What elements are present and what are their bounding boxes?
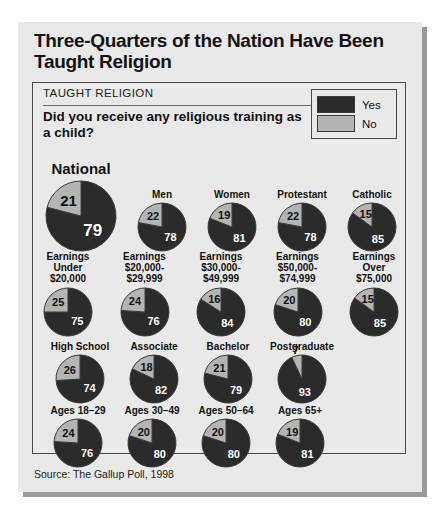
pie-wrapper: 2179 [203,354,253,404]
pie-wrapper: 2080 [201,418,251,468]
pie-row-education: High School2674Associate1882Bachelor2179… [43,341,399,404]
kicker-divider [43,105,321,106]
pie-slice-no [278,203,302,227]
pie-cell-earnings-50-000-74-999[interactable]: Earnings $50,000- $74,9992080 [273,251,323,337]
source-note: Source: The Gallup Poll, 1998 [34,468,174,480]
pie-cell-associate[interactable]: Associate1882 [117,341,191,404]
pie-chart [273,287,323,337]
legend-item-yes: Yes [317,96,391,113]
pie-row-demographics: National2179Men2278Women1981Protestant22… [45,161,397,252]
pie-chart [203,354,253,404]
pie-cell-label: High School [51,341,109,352]
pie-slice-no [138,203,162,227]
pie-row-ages: Ages 18–292476Ages 30–492080Ages 50–6420… [41,405,397,468]
pie-cell-label: Earnings $20,000- $29,999 [123,251,166,285]
pie-wrapper: 2476 [120,287,170,337]
pie-cell-protestant[interactable]: Protestant2278 [277,189,327,252]
pie-cell-earnings-under-20-000[interactable]: Earnings Under $20,0002575 [43,251,93,337]
pie-cell-national[interactable]: National2179 [45,161,117,252]
pie-chart [275,418,325,468]
chart-kicker: TAUGHT RELIGION [43,87,153,99]
pie-cell-earnings-20-000-29-999[interactable]: Earnings $20,000- $29,9992476 [120,251,170,337]
pie-cell-label: Ages 65+ [278,405,322,416]
pie-cell-label: Ages 30–49 [124,405,179,416]
pie-wrapper: 1882 [129,354,179,404]
pie-wrapper: 2179 [45,180,117,252]
chart-frame: TAUGHT RELIGION Did you receive any reli… [32,82,406,454]
pie-chart [129,354,179,404]
pie-slice-no [121,288,145,312]
pie-wrapper: 793 [277,354,327,404]
pie-cell-label: Earnings Over $75,000 [353,251,396,285]
pie-wrapper: 1585 [349,287,399,337]
pie-cell-label: Bachelor [207,341,250,352]
pie-chart [137,202,187,252]
pie-slice-no [56,355,80,381]
legend-swatch-yes-icon [317,96,355,113]
pie-wrapper: 2674 [55,354,105,404]
pie-wrapper: 2080 [127,418,177,468]
pie-wrapper: 1981 [207,202,257,252]
pie-chart [277,202,327,252]
pie-cell-label: Earnings Under $20,000 [47,251,90,285]
pie-wrapper: 1684 [196,287,246,337]
legend-item-no: No [317,115,391,132]
pie-cell-postgraduate[interactable]: Postgraduate793 [265,341,339,404]
pie-cell-ages-65[interactable]: Ages 65+1981 [263,405,337,468]
pie-row-earnings: Earnings Under $20,0002575Earnings $20,0… [43,251,399,337]
pie-wrapper: 1981 [275,418,325,468]
pie-wrapper: 2278 [137,202,187,252]
pie-chart [201,418,251,468]
pie-cell-earnings-over-75-000[interactable]: Earnings Over $75,0001585 [349,251,399,337]
screenshot-stage: Three-Quarters of the Nation Have Been T… [0,0,439,518]
pie-wrapper: 2476 [53,418,103,468]
pie-chart [347,202,397,252]
legend-label-yes: Yes [362,99,381,111]
pie-cell-women[interactable]: Women1981 [207,189,257,252]
pie-cell-bachelor[interactable]: Bachelor2179 [191,341,265,404]
infographic-card: Three-Quarters of the Nation Have Been T… [18,22,422,492]
pie-chart [127,418,177,468]
pie-slice-no [54,419,78,443]
legend-swatch-no-icon [317,115,355,132]
pie-cell-label: Earnings $30,000- $49,999 [200,251,243,285]
legend-label-no: No [362,118,377,130]
pie-cell-label: National [51,161,110,178]
pie-chart [277,354,327,404]
pie-cell-ages-50-64[interactable]: Ages 50–642080 [189,405,263,468]
pie-cell-high-school[interactable]: High School2674 [43,341,117,404]
pie-chart [207,202,257,252]
pie-cell-catholic[interactable]: Catholic1585 [347,189,397,252]
pie-chart [53,418,103,468]
pie-cell-ages-18-29[interactable]: Ages 18–292476 [41,405,115,468]
page-title: Three-Quarters of the Nation Have Been T… [34,30,408,73]
pie-cell-label: Ages 50–64 [198,405,253,416]
pie-cell-ages-30-49[interactable]: Ages 30–492080 [115,405,189,468]
pie-slice-no [44,288,68,312]
pie-cell-label: Earnings $50,000- $74,999 [276,251,319,285]
pie-cell-label: Associate [130,341,177,352]
pie-wrapper: 2575 [43,287,93,337]
pie-cell-label: Women [214,189,250,200]
chart-question: Did you receive any religious training a… [43,109,303,142]
pie-cell-label: Postgraduate [270,341,334,352]
pie-wrapper: 2080 [273,287,323,337]
pie-cell-earnings-30-000-49-999[interactable]: Earnings $30,000- $49,9991684 [196,251,246,337]
pie-wrapper: 2278 [277,202,327,252]
pie-chart [196,287,246,337]
pie-cell-label: Protestant [277,189,326,200]
pie-chart [55,354,105,404]
pie-wrapper: 1585 [347,202,397,252]
pie-cell-label: Catholic [352,189,391,200]
chart-legend: Yes No [311,89,397,139]
pie-chart [43,287,93,337]
pie-chart [349,287,399,337]
pie-cell-label: Men [152,189,172,200]
pie-cell-label: Ages 18–29 [50,405,105,416]
pie-chart [120,287,170,337]
pie-chart [45,180,117,252]
pie-cell-men[interactable]: Men2278 [137,189,187,252]
